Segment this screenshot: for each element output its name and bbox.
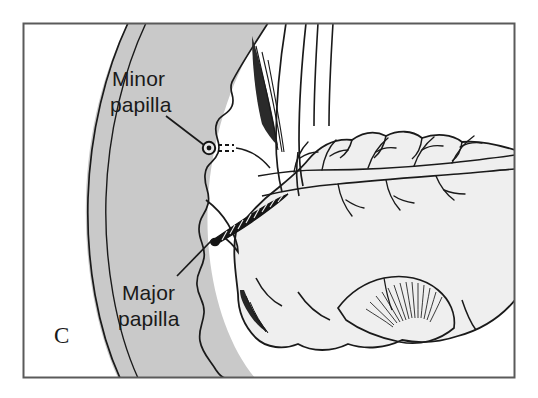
figure-panel: Minor papilla Major papilla C — [0, 0, 538, 398]
minor-papilla-center-dot — [207, 146, 212, 151]
major-papilla-label-line1: Major — [122, 281, 175, 304]
anatomy-illustration: Minor papilla Major papilla C — [0, 0, 538, 398]
minor-papilla-label-line1: Minor — [112, 67, 165, 90]
panel-letter: C — [54, 323, 69, 348]
minor-papilla-label-line2: papilla — [110, 93, 172, 116]
major-papilla-label-line2: papilla — [118, 307, 180, 330]
major-papilla-tip — [210, 238, 220, 246]
